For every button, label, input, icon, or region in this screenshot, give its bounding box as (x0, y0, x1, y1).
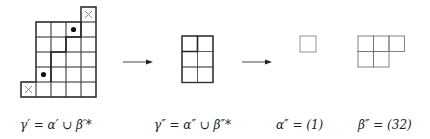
gamma-double-prime-staircase (182, 36, 198, 52)
dot-marker (41, 72, 46, 77)
arrow-right-icon (242, 60, 272, 65)
gamma-double-prime-label: γ″ = α″ ∪ β″* (154, 118, 231, 132)
alpha-double-prime-diagram (300, 36, 316, 52)
gamma-prime-label: γ′ = α′ ∪ β′* (20, 118, 92, 132)
dot-marker (71, 27, 76, 32)
arrow-right-icon (123, 60, 153, 65)
cross-icon (85, 11, 92, 18)
beta-double-prime-diagram (358, 36, 405, 67)
beta-double-prime-label: β″ = (32) (358, 118, 412, 132)
alpha-double-prime-label: α″ = (1) (276, 118, 323, 132)
cross-icon (25, 86, 32, 93)
